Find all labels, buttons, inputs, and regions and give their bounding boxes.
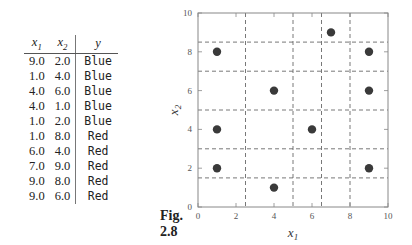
data-point [365,48,373,56]
y-axis-label: x2 [166,104,183,116]
data-point [365,86,373,94]
y-tick-label: 6 [188,86,193,96]
data-point [327,28,335,36]
y-tick-label: 8 [188,47,193,57]
x-tick-label: 4 [272,211,277,221]
y-tick-label: 4 [188,124,193,134]
figure-label-line1: Fig. [160,208,183,224]
scatter-plot: 02468100246810x1x2 [0,0,412,245]
data-point [213,164,221,172]
x-tick-label: 2 [234,211,239,221]
x-tick-label: 8 [348,211,353,221]
data-point [270,86,278,94]
y-tick-label: 0 [188,202,193,212]
data-point [270,183,278,191]
data-point [308,125,316,133]
data-point [213,125,221,133]
x-tick-label: 0 [196,211,201,221]
x-tick-label: 10 [384,211,394,221]
y-tick-label: 2 [188,163,193,173]
data-point [213,48,221,56]
figure-label-line2: 2.8 [160,224,183,240]
figure-label: Fig. 2.8 [160,208,183,240]
x-tick-label: 6 [310,211,315,221]
x-axis-label: x1 [287,225,298,242]
y-tick-label: 10 [183,8,193,18]
data-point [365,164,373,172]
